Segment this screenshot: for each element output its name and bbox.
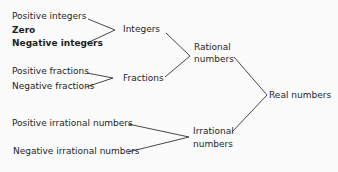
- label-fractions: Fractions: [123, 73, 164, 84]
- edge-irrational-to-real: [232, 95, 267, 132]
- label-negative-integers: Negative integers: [12, 38, 103, 49]
- label-negative-irrational: Negative irrational numbers: [13, 146, 139, 157]
- edge-positive-integers-to-integers: [88, 19, 115, 30]
- edge-rational-to-real: [234, 57, 267, 95]
- label-rational-line2: numbers: [194, 54, 234, 65]
- label-real-numbers: Real numbers: [269, 90, 331, 101]
- label-positive-fractions: Positive fractions: [12, 66, 89, 77]
- label-irrational-line2: numbers: [193, 139, 233, 150]
- label-rational-line1: Rational: [194, 42, 231, 53]
- label-positive-irrational: Positive irrational numbers: [12, 118, 133, 129]
- edge-positive-fractions-to-fractions: [87, 73, 113, 78]
- label-irrational-line1: Irrational: [193, 126, 234, 137]
- label-zero: Zero: [12, 25, 35, 36]
- edge-integers-to-rational: [166, 33, 190, 56]
- edge-fractions-to-rational: [165, 56, 190, 77]
- label-positive-integers: Positive integers: [12, 11, 86, 22]
- edge-positive-irrational-to-irrational: [128, 124, 189, 137]
- label-integers: Integers: [123, 24, 160, 35]
- label-negative-fractions: Negative fractions: [12, 81, 95, 92]
